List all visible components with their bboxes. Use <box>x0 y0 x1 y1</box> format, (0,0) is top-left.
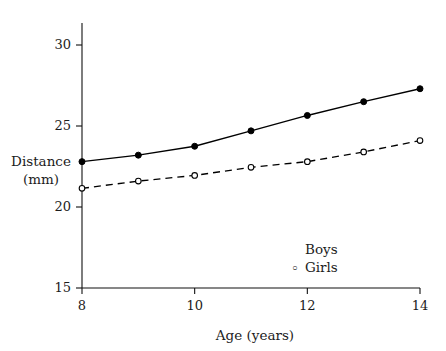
x-tick-label: 14 <box>390 299 446 312</box>
y-tick-label: 30 <box>0 38 71 51</box>
x-tick-label: 10 <box>165 299 225 312</box>
data-point-boys <box>192 143 198 149</box>
data-point-girls <box>136 178 142 184</box>
chart-ticks <box>76 45 420 294</box>
x-tick-label: 8 <box>52 299 112 312</box>
x-tick-label: 12 <box>277 299 337 312</box>
legend-label-boys: Boys <box>305 243 338 257</box>
y-tick-label: 15 <box>0 281 71 294</box>
data-point-girls <box>305 159 311 165</box>
data-point-girls <box>79 186 85 192</box>
legend-label-girls: Girls <box>305 261 338 275</box>
y-axis-label-line-1: Distance <box>2 152 80 170</box>
chart-figure: 15 20 25 30 8 10 12 14 Distance (mm) Age… <box>0 0 446 351</box>
y-tick-label: 25 <box>0 119 71 132</box>
data-point-boys <box>417 86 423 92</box>
y-tick-label: 20 <box>0 200 71 213</box>
data-point-girls <box>248 165 254 171</box>
y-axis-label-line-2: (mm) <box>2 170 80 188</box>
x-axis-label: Age (years) <box>170 329 340 343</box>
data-point-boys <box>361 99 367 105</box>
data-point-boys <box>135 152 141 158</box>
data-point-girls <box>361 149 367 155</box>
data-point-boys <box>304 112 310 118</box>
chart-series <box>79 86 423 191</box>
y-axis-label: Distance (mm) <box>2 152 80 188</box>
data-point-girls <box>417 138 423 144</box>
data-point-girls <box>192 173 198 179</box>
data-point-boys <box>248 128 254 134</box>
legend-open-circle-icon: ◦ <box>291 262 299 276</box>
